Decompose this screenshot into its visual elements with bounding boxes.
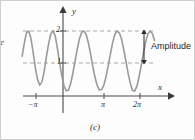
- x-axis-label: x: [158, 83, 162, 92]
- x-tick-label-2pi: 2π: [133, 101, 141, 109]
- y-axis-arrowhead: [59, 6, 66, 13]
- figure-caption: (c): [90, 123, 100, 132]
- x-tick-label-pi: π: [101, 101, 105, 109]
- y-tick-label-1: 1: [57, 58, 61, 66]
- x-axis-arrowhead: [168, 92, 175, 99]
- x-tick-label-neg-pi: −π: [28, 101, 37, 109]
- y-axis-label: y: [72, 7, 76, 16]
- graph-canvas: [1, 1, 195, 140]
- y-tick-label-2: 2: [56, 26, 60, 34]
- figure-container: e y x 2 1 −π π 2π Amplitude (c): [0, 0, 195, 140]
- cosine-curve: [22, 31, 154, 91]
- left-edge-text-fragment: e: [0, 38, 4, 47]
- amplitude-annotation-label: Amplitude: [151, 42, 191, 51]
- amplitude-arrowhead-up: [141, 30, 147, 35]
